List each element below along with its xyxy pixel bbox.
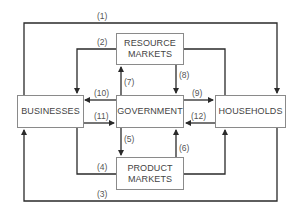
flow-label-9: (9) <box>192 88 202 98</box>
resource-markets-line1: RESOURCE <box>124 38 176 48</box>
flow-label-3: (3) <box>97 189 107 199</box>
flow-2 <box>77 49 116 93</box>
households-box: HOUSEHOLDS <box>215 95 286 128</box>
flow-label-2: (2) <box>97 37 107 47</box>
households-label: HOUSEHOLDS <box>218 106 282 117</box>
flow-label-12: (12) <box>191 111 206 121</box>
flow-label-4: (4) <box>97 162 107 172</box>
flow-pm-households <box>184 130 225 174</box>
product-markets-box: PRODUCTMARKETS <box>116 157 184 190</box>
resource-markets-line2: MARKETS <box>128 49 172 59</box>
government-box: GOVERNMENT <box>116 95 184 128</box>
flow-label-11: (11) <box>94 111 109 121</box>
flow-label-10: (10) <box>94 88 109 98</box>
flow-label-1: (1) <box>97 11 107 21</box>
flow-label-7: (7) <box>124 77 134 87</box>
businesses-box: BUSINESSES <box>17 95 84 128</box>
flow-rm-households <box>184 49 225 95</box>
product-markets-line1: PRODUCT <box>127 163 172 173</box>
flow-label-8: (8) <box>179 70 189 80</box>
flow-label-5: (5) <box>124 134 134 144</box>
businesses-label: BUSINESSES <box>21 106 80 117</box>
government-label: GOVERNMENT <box>117 106 183 117</box>
product-markets-line2: MARKETS <box>128 174 172 184</box>
resource-markets-box: RESOURCEMARKETS <box>116 33 184 65</box>
flow-label-6: (6) <box>179 143 189 153</box>
